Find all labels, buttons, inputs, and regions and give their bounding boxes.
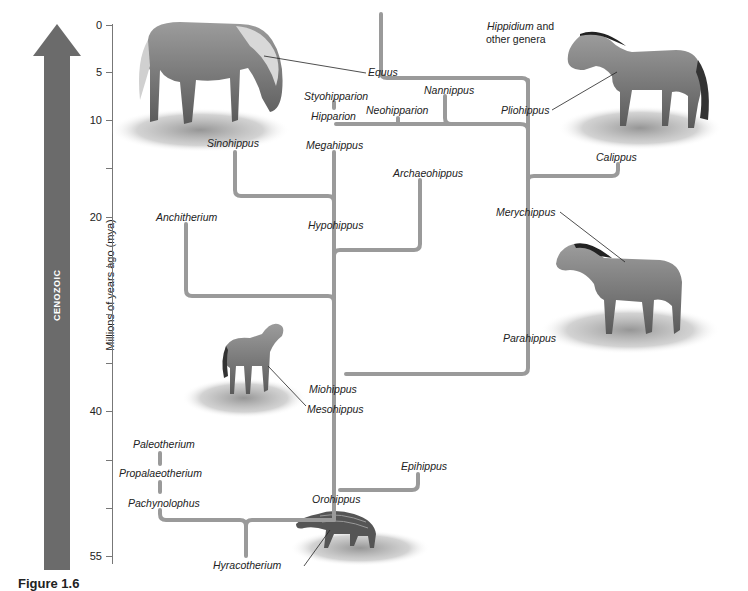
label-sinohippus: Sinohippus: [207, 137, 259, 149]
label-hypohippus: Hypohippus: [308, 219, 363, 231]
label-hippidium-name: Hippidium: [487, 20, 534, 32]
label-styohipparion: Styohipparion: [304, 90, 368, 102]
label-pliohippus: Pliohippus: [501, 104, 549, 116]
merychippus-illustration: [540, 212, 720, 354]
label-epihippus: Epihippus: [401, 460, 447, 472]
mesohippus-illustration: [182, 324, 306, 418]
label-hipparion: Hipparion: [311, 110, 356, 122]
label-hyracotherium: Hyracotherium: [213, 559, 281, 571]
label-merychippus: Merychippus: [496, 206, 556, 218]
label-other-genera: other genera: [486, 33, 546, 45]
label-megahippus: Megahippus: [306, 139, 363, 151]
branches: [160, 14, 618, 556]
label-hippidium: Hippidium and: [487, 20, 554, 32]
pliohippus-illustration: [552, 32, 722, 150]
label-paleotherium: Paleotherium: [133, 438, 195, 450]
label-archaeohippus: Archaeohippus: [393, 167, 463, 179]
label-propalaeotherium: Propalaeotherium: [119, 467, 202, 479]
label-mesohippus: Mesohippus: [307, 403, 364, 415]
label-neohipparion: Neohipparion: [366, 104, 428, 116]
figure-caption: Figure 1.6: [18, 576, 79, 591]
label-equus: Equus: [368, 66, 398, 78]
label-pachynolophus: Pachynolophus: [128, 497, 200, 509]
label-miohippus: Miohippus: [309, 383, 357, 395]
label-anchitherium: Anchitherium: [156, 211, 217, 223]
label-nannippus: Nannippus: [424, 84, 474, 96]
equus-illustration: [110, 22, 366, 152]
label-calippus: Calippus: [596, 151, 637, 163]
label-hippidium-suffix: and: [534, 20, 554, 32]
label-parahippus: Parahippus: [503, 332, 556, 344]
label-orohippus: Orohippus: [312, 493, 360, 505]
